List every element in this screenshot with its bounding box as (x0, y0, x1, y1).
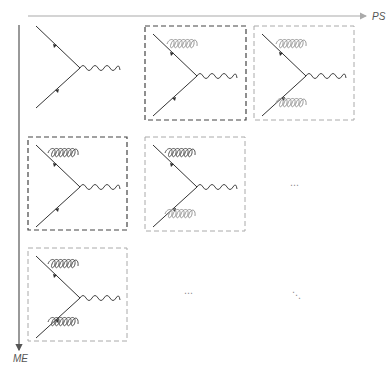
diagram-1me (28, 137, 127, 230)
me-axis-label: ME (13, 353, 28, 364)
ellipsis-row2: ⋯ (184, 288, 193, 298)
diagram-2ps (254, 26, 354, 120)
diagram-1ps (145, 26, 246, 120)
me-ps-diagram: PS ME (0, 0, 388, 372)
diagram-1me-1ps (145, 137, 245, 231)
ellipsis-row1: ⋯ (290, 180, 299, 190)
diagram-2me (28, 248, 127, 341)
diagram-born (36, 26, 120, 108)
ellipsis-diagonal: ⋱ (292, 290, 301, 300)
ps-axis-label: PS (372, 11, 386, 22)
